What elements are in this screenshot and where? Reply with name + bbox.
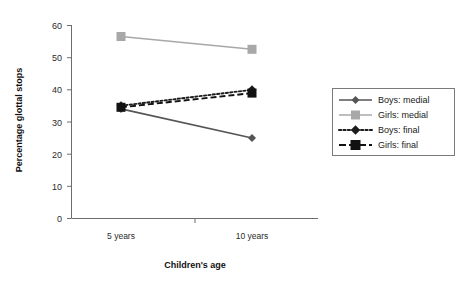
legend-label-girls-medial: Girls: medial [378, 110, 428, 120]
x-axis-title: Children's age [164, 260, 226, 270]
y-tick-label-0: 0 [57, 214, 62, 224]
marker-girls-medial-10y [248, 45, 257, 54]
series-line-boys-final [121, 90, 252, 106]
y-tick-label-30: 30 [52, 118, 62, 128]
legend-entry-girls-medial[interactable]: Girls: medial [339, 110, 428, 120]
marker-girls-medial-5y [117, 32, 126, 41]
marker-girls-final-5y [117, 103, 126, 112]
legend-entry-girls-final[interactable]: Girls: final [339, 140, 418, 150]
legend-label-boys-final: Boys: final [378, 125, 420, 135]
x-tick-label-10-years: 10 years [236, 231, 269, 241]
legend-marker-girls-final [351, 140, 361, 150]
series-line-girls-medial [121, 37, 252, 50]
y-tick-label-20: 20 [52, 150, 62, 160]
legend-marker-girls-medial [351, 111, 360, 120]
series-line-boys-medial [121, 109, 252, 138]
marker-girls-final-10y [248, 89, 257, 98]
marker-boys-medial-10y [248, 134, 256, 142]
x-tick-label-5-years: 5 years [107, 231, 135, 241]
chart-legend: Boys: medial Girls: medial Boys: final G… [333, 89, 455, 156]
legend-label-girls-final: Girls: final [378, 140, 418, 150]
series-line-girls-final [121, 93, 252, 107]
chart-figure: 60 50 40 30 20 10 0 5 years 10 years Chi… [0, 0, 461, 284]
y-tick-label-60: 60 [52, 21, 62, 31]
legend-label-boys-medial: Boys: medial [378, 95, 430, 105]
y-tick-label-40: 40 [52, 85, 62, 95]
line-chart-svg: 60 50 40 30 20 10 0 5 years 10 years Chi… [0, 0, 461, 284]
y-tick-label-50: 50 [52, 53, 62, 63]
y-tick-label-10: 10 [52, 182, 62, 192]
y-axis-title: Percentage glottal stops [14, 68, 24, 173]
